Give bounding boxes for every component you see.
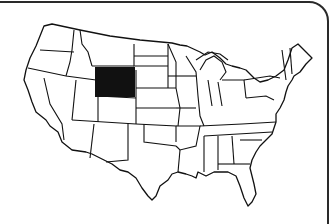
us-map [0, 0, 333, 224]
state-wyoming-highlighted [95, 67, 135, 97]
